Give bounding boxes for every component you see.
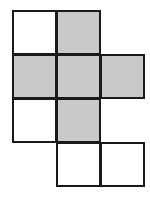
unshaded-square xyxy=(12,98,57,143)
shaded-square xyxy=(56,54,101,99)
shaded-square xyxy=(100,54,145,99)
shaded-square xyxy=(56,98,101,143)
unshaded-square xyxy=(100,142,145,187)
unshaded-square xyxy=(12,10,57,55)
shaded-square xyxy=(56,10,101,55)
shaded-square xyxy=(12,54,57,99)
unshaded-square xyxy=(56,142,101,187)
